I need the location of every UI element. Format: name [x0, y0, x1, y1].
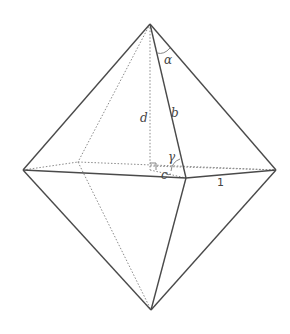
label-gamma: γ: [168, 150, 176, 164]
edge-front-right: [186, 170, 276, 178]
label-b: b: [171, 106, 179, 120]
octahedron-diagram: α b d γ c 1: [0, 0, 290, 334]
edge-apex-right: [150, 24, 276, 170]
hidden-edge-left-backleft: [23, 162, 78, 170]
hidden-edge-backleft-bottom: [78, 162, 151, 310]
edge-left-bottom: [23, 170, 151, 310]
label-c: c: [161, 168, 168, 182]
hidden-edge-apex-backleft: [78, 24, 150, 162]
label-alpha: α: [164, 53, 172, 67]
edge-apex-left: [23, 24, 150, 170]
label-d: d: [140, 111, 148, 125]
label-one: 1: [217, 176, 224, 189]
